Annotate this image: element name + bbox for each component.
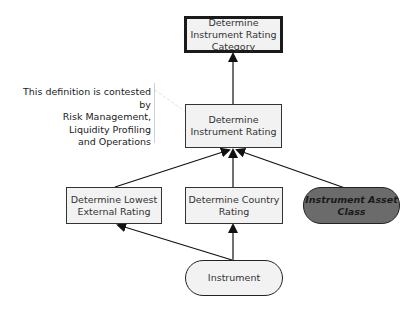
annotation-line-2: Risk Management, (10, 111, 151, 124)
node-label-line-1: Determine (208, 17, 258, 29)
annotation-line-1: This definition is contested by (10, 86, 151, 111)
edge-lowest-to-rating (115, 150, 229, 187)
node-instrument[interactable]: Instrument (185, 260, 283, 296)
annotation-line-3: Liquidity Profiling (10, 124, 151, 137)
edge-assetclass-to-rating (237, 150, 345, 188)
node-determine-instrument-rating-category[interactable]: Determine Instrument Rating Category (184, 16, 283, 53)
node-label-line-3: Category (212, 41, 255, 53)
node-label-line-2: Class (338, 206, 366, 218)
annotation-note: This definition is contested by Risk Man… (10, 86, 151, 149)
node-determine-instrument-rating[interactable]: Determine Instrument Rating (185, 104, 282, 148)
annotation-line-4: and Operations (10, 136, 151, 149)
node-determine-country-rating[interactable]: Determine Country Rating (185, 187, 283, 224)
node-label-line-1: Determine (208, 114, 258, 126)
node-instrument-asset-class[interactable]: Instrument Asset Class (303, 187, 400, 224)
node-label-line-1: Instrument Asset (305, 194, 398, 206)
node-label-line-2: Rating (219, 206, 250, 218)
annotation-connector (155, 90, 186, 112)
node-label-line-2: Instrument Rating (191, 126, 277, 138)
node-label-line-1: Determine Lowest (71, 194, 157, 206)
node-label-line-1: Determine Country (189, 194, 280, 206)
node-determine-lowest-external-rating[interactable]: Determine Lowest External Rating (66, 187, 162, 224)
edge-instrument-to-lowest (118, 225, 232, 260)
node-label-line-2: External Rating (77, 206, 150, 218)
node-label-line-2: Instrument Rating (191, 29, 277, 41)
node-label: Instrument (208, 272, 260, 284)
